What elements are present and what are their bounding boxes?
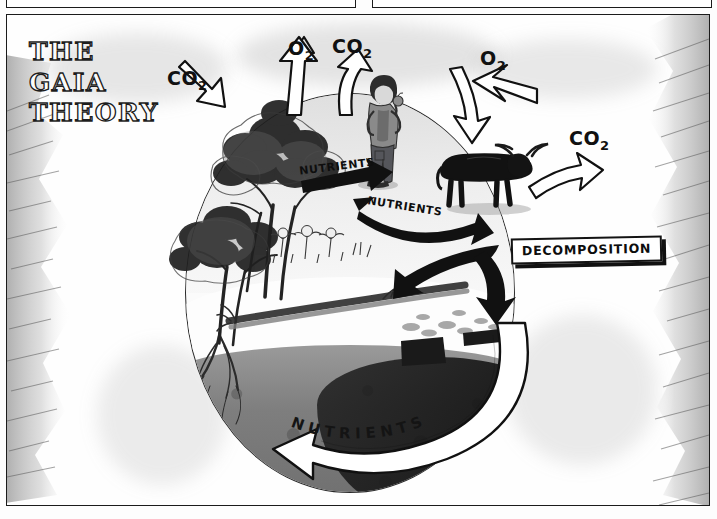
- page-title: THE GAIA THEORY: [29, 37, 179, 129]
- arrow-up-right-icon: [529, 153, 603, 198]
- decomposition-label: DECOMPOSITION: [511, 235, 663, 264]
- co2-man-label: CO2: [332, 35, 373, 61]
- globe-sky: [185, 94, 515, 293]
- soil-shadow: [317, 357, 515, 493]
- earth-globe: [185, 93, 515, 493]
- title-line-3: THEORY: [29, 98, 179, 129]
- title-line-2: GAIA: [29, 68, 179, 99]
- o2-right-label: O2: [480, 47, 506, 73]
- co2-right-label: CO2: [569, 127, 610, 153]
- gaia-theory-panel: THE GAIA THEORY: [6, 14, 710, 506]
- o2-tree-label: O2: [288, 37, 314, 63]
- title-line-1: THE: [29, 37, 179, 68]
- previous-panel-left: [6, 0, 356, 8]
- globe-disc: [185, 93, 515, 493]
- previous-panel-right: [372, 0, 712, 8]
- co2-left-label: CO2: [167, 67, 208, 93]
- background-wash: [507, 315, 657, 465]
- comic-page: THE GAIA THEORY: [0, 0, 717, 519]
